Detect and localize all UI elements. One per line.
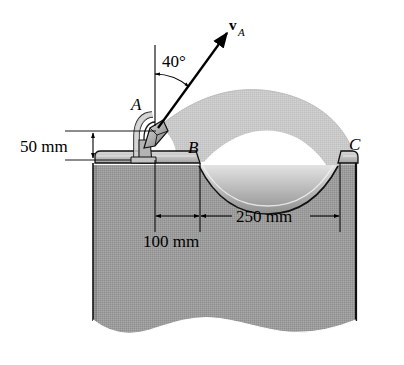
label-point-b: B bbox=[188, 138, 199, 157]
vane-block bbox=[93, 151, 358, 333]
label-angle: 40° bbox=[162, 52, 186, 71]
label-width-dimension-100: 100 mm bbox=[143, 232, 199, 251]
label-height-dimension: 50 mm bbox=[20, 137, 68, 156]
velocity-symbol: v bbox=[229, 17, 237, 33]
label-point-a: A bbox=[130, 95, 142, 114]
velocity-subscript: A bbox=[237, 26, 245, 38]
label-width-dimension-250: 250 mm bbox=[236, 207, 292, 226]
label-point-c: C bbox=[349, 135, 361, 154]
figure-canvas: A B C v A 40° 50 mm 100 mm 250 mm bbox=[0, 0, 404, 365]
label-velocity-vector: v A bbox=[229, 17, 245, 38]
